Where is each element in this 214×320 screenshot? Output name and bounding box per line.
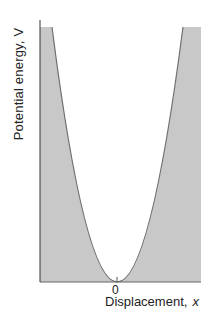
x-axis-label: Displacement,x <box>105 294 199 309</box>
x-axis-variable: x <box>192 294 199 309</box>
x-axis-label-text: Displacement, <box>105 294 187 309</box>
potential-energy-chart <box>0 0 214 320</box>
y-axis-label: Potential energy, V <box>4 0 32 320</box>
